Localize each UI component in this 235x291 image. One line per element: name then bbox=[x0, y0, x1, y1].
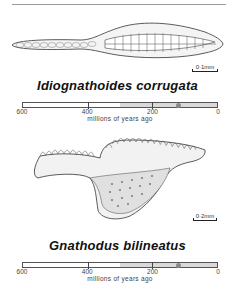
timeline-2-label-400: 400 bbox=[82, 268, 93, 275]
timeline-1-label-200: 200 bbox=[147, 108, 158, 115]
timeline-2-label-0: 0 bbox=[216, 268, 220, 275]
scale-bar-2: 0·2mm bbox=[193, 213, 217, 221]
species-name-2: Gnathodus bilineatus bbox=[0, 238, 235, 253]
timeline-1: 600 400 200 0 millions of years ago bbox=[22, 102, 218, 122]
timeline-2-axis-title: millions of years ago bbox=[22, 275, 218, 282]
timeline-2: 600 400 200 0 millions of years ago bbox=[22, 262, 218, 282]
timeline-1-shaded-range bbox=[120, 103, 217, 107]
gnathodus-fossil-illustration bbox=[30, 138, 210, 223]
timeline-1-label-0: 0 bbox=[216, 108, 220, 115]
scale-bar-1: 0·1mm bbox=[192, 64, 218, 72]
scale-bar-1-label: 0·1mm bbox=[192, 64, 218, 70]
timeline-2-label-600: 600 bbox=[17, 268, 28, 275]
timeline-1-axis-title: millions of years ago bbox=[22, 115, 218, 122]
idiognathoides-fossil-illustration bbox=[10, 18, 225, 60]
scale-bar-2-label: 0·2mm bbox=[193, 213, 217, 219]
scale-bar-2-line bbox=[193, 220, 217, 221]
species-name-1: Idiognathoides corrugata bbox=[0, 78, 235, 93]
timeline-2-tick-labels: 600 400 200 0 bbox=[22, 268, 218, 276]
top-divider bbox=[12, 4, 226, 5]
scale-bar-1-line bbox=[192, 71, 218, 72]
timeline-2-label-200: 200 bbox=[147, 268, 158, 275]
timeline-1-label-400: 400 bbox=[82, 108, 93, 115]
timeline-1-tick-labels: 600 400 200 0 bbox=[22, 108, 218, 116]
timeline-2-shaded-range bbox=[120, 263, 217, 267]
timeline-1-label-600: 600 bbox=[17, 108, 28, 115]
